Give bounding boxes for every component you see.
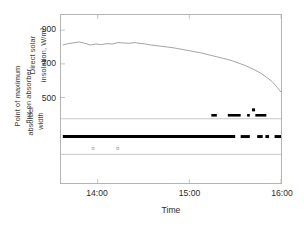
x-axis-tick-labels: 14:0015:0016:00 xyxy=(0,188,307,202)
x-axis-label: Time xyxy=(60,205,282,215)
y-axis-tick-label: 500 xyxy=(16,93,56,103)
x-axis-tick-label: 16:00 xyxy=(271,188,293,198)
y-axis-tick-label: 700 xyxy=(16,58,56,68)
y-axis-tick-label: 900 xyxy=(16,24,56,34)
x-axis-tick-label: 15:00 xyxy=(179,188,201,198)
max-flux-faint-marker xyxy=(92,147,94,149)
plot-graphics xyxy=(61,15,281,183)
x-axis-tick-label: 14:00 xyxy=(86,188,108,198)
max-flux-outlier-marker xyxy=(252,108,255,111)
insolation-line-series xyxy=(63,42,281,92)
chart-figure: Point of maximum flux on absorber absorb… xyxy=(0,0,307,231)
max-flux-faint-marker xyxy=(117,147,119,149)
plot-area xyxy=(60,14,282,184)
